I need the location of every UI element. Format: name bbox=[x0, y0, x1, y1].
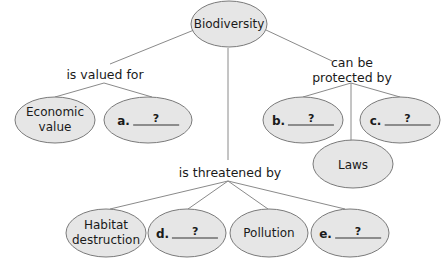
concept-map: Biodiversity is valued for can be protec… bbox=[0, 0, 446, 267]
line-valued-to-economic bbox=[55, 83, 104, 97]
node-laws: Laws bbox=[338, 158, 368, 173]
node-d-answer-blank[interactable]: ? bbox=[172, 226, 218, 239]
line-threatened-to-d bbox=[188, 181, 228, 209]
link-label-protected: can be protected by bbox=[312, 55, 392, 85]
node-biodiversity: Biodiversity bbox=[194, 17, 265, 32]
node-habitat-destruction: Habitat destruction bbox=[72, 218, 140, 248]
node-b-blank: b. ? bbox=[272, 114, 334, 129]
node-economic-line2: value bbox=[26, 120, 84, 135]
line-valued-to-a bbox=[104, 83, 152, 97]
node-e-answer-blank[interactable]: ? bbox=[335, 226, 381, 239]
link-label-threatened-text: is threatened by bbox=[179, 165, 281, 180]
line-threatened-to-habitat bbox=[110, 181, 228, 209]
link-label-protected-line2: protected by bbox=[312, 70, 392, 85]
node-biodiversity-label: Biodiversity bbox=[194, 17, 265, 31]
line-protected-to-b bbox=[303, 83, 351, 97]
line-protected-to-c bbox=[351, 83, 400, 97]
node-c-answer-blank[interactable]: ? bbox=[384, 113, 430, 126]
line-root-to-valued bbox=[110, 30, 194, 64]
link-label-valued: is valued for bbox=[66, 67, 143, 82]
node-c-blank: c. ? bbox=[370, 114, 431, 129]
node-economic-value: Economic value bbox=[26, 105, 84, 135]
node-b-answer-blank[interactable]: ? bbox=[288, 113, 334, 126]
node-c-letter: c. bbox=[370, 114, 382, 129]
node-e-letter: e. bbox=[319, 227, 332, 242]
node-economic-line1: Economic bbox=[26, 105, 84, 120]
node-d-letter: d. bbox=[156, 227, 169, 242]
line-threatened-to-pollution bbox=[228, 181, 268, 209]
line-threatened-to-e bbox=[228, 181, 345, 209]
node-a-letter: a. bbox=[117, 114, 130, 129]
node-b-letter: b. bbox=[272, 114, 285, 129]
node-habitat-line1: Habitat bbox=[72, 218, 140, 233]
link-label-protected-line1: can be bbox=[312, 55, 392, 70]
node-habitat-line2: destruction bbox=[72, 233, 140, 248]
link-label-threatened: is threatened by bbox=[179, 165, 281, 180]
node-a-answer-blank[interactable]: ? bbox=[133, 113, 179, 126]
node-a-blank: a. ? bbox=[117, 114, 179, 129]
node-pollution: Pollution bbox=[243, 226, 294, 241]
node-d-blank: d. ? bbox=[156, 227, 218, 242]
node-laws-label: Laws bbox=[338, 158, 368, 172]
node-pollution-label: Pollution bbox=[243, 226, 294, 240]
link-label-valued-text: is valued for bbox=[66, 67, 143, 82]
node-e-blank: e. ? bbox=[319, 227, 381, 242]
